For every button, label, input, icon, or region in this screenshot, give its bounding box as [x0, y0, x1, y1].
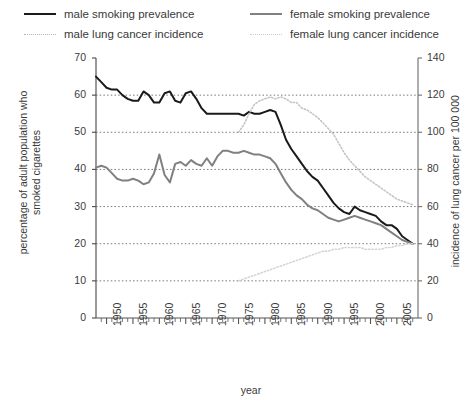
x-axis-tick-label: 1960	[163, 303, 175, 326]
y-axis-right-tick-label: 60	[427, 200, 453, 212]
x-axis-title: year	[96, 384, 406, 397]
x-axis-tick-label: 2000	[374, 303, 386, 326]
series-line-male-lung-cancer-incidence	[239, 97, 413, 205]
x-axis-tick-label: 1975	[243, 303, 255, 326]
x-axis-tick-label: 1990	[322, 303, 334, 326]
y-axis-left-tick-label: 50	[62, 125, 86, 137]
y-axis-right-tick-label: 80	[427, 162, 453, 174]
y-axis-right-tick-label: 20	[427, 274, 453, 286]
y-axis-right-tick-label: 140	[427, 51, 453, 63]
y-axis-left-tick-label: 10	[62, 274, 86, 286]
y-axis-right-tick-label: 100	[427, 125, 453, 137]
x-axis-tick-label: 1980	[269, 303, 281, 326]
y-axis-left-tick-label: 70	[62, 51, 86, 63]
series-line-female-smoking-prevalence	[96, 151, 413, 244]
y-axis-left-tick-label: 60	[62, 88, 86, 100]
y-axis-right-tick-label: 0	[427, 311, 453, 323]
x-axis-tick-label: 1965	[190, 303, 202, 326]
x-axis-tick-label: 1995	[348, 303, 360, 326]
y-axis-left-tick-label: 0	[62, 311, 86, 323]
series-line-female-lung-cancer-incidence	[239, 244, 413, 281]
x-axis-tick-label: 1955	[137, 303, 149, 326]
x-axis-tick-label: 1985	[295, 303, 307, 326]
x-axis-tick-label: 2005	[401, 303, 413, 326]
y-axis-right-tick-label: 40	[427, 237, 453, 249]
y-axis-left-tick-label: 20	[62, 237, 86, 249]
y-axis-left-tick-label: 30	[62, 200, 86, 212]
y-axis-left-title: percentage of adult population who smoke…	[17, 78, 42, 268]
y-axis-right-tick-label: 120	[427, 88, 453, 100]
x-axis-tick-label: 1950	[111, 303, 123, 326]
lung-cancer-smoking-chart: male smoking prevalence male lung cancer…	[0, 0, 476, 405]
x-axis-tick-label: 1970	[216, 303, 228, 326]
y-axis-left-tick-label: 40	[62, 162, 86, 174]
